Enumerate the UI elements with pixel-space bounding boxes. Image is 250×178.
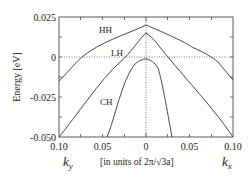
x-units-label: [in units of 2π/√3a] — [100, 157, 174, 167]
y-tick-label: -0.025 — [30, 92, 56, 103]
x-tick-label: 0.05 — [94, 141, 112, 152]
lh-label: LH — [111, 48, 123, 58]
x-tick-label: 0 — [144, 141, 149, 152]
x-tick-label: 0.10 — [224, 141, 242, 152]
band-structure-chart: HH LH CH 0.025 0 -0.025 -0.050 0.10 0.05… — [0, 0, 250, 178]
x-tick-label: 0.10 — [50, 141, 68, 152]
ky-label: ky — [63, 154, 73, 171]
y-tick-label: 0 — [51, 52, 56, 63]
hh-label: HH — [99, 25, 112, 35]
kx-label: kx — [222, 154, 232, 171]
y-axis-label: Energy [eV] — [11, 52, 22, 102]
x-tick-label: 0.05 — [181, 141, 199, 152]
ch-label: CH — [100, 97, 113, 107]
y-tick-label: 0.025 — [34, 12, 57, 23]
ch-band-curve — [107, 59, 172, 137]
